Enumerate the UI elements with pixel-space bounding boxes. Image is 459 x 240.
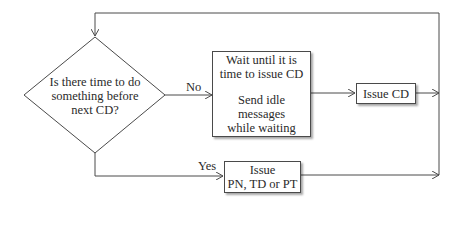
issue-cd-label: Issue CD (363, 87, 409, 101)
decision-line-1: Is there time to do (38, 75, 152, 89)
decision-line-3: next CD? (38, 103, 152, 117)
issue-pn-line-2: PN, TD or PT (228, 177, 298, 191)
decision-text: Is there time to do something before nex… (38, 75, 152, 117)
wait-line-1: Wait until it is (226, 53, 297, 67)
yes-label: Yes (198, 159, 216, 173)
issue-pn-td-pt-box: Issue PN, TD or PT (224, 161, 301, 193)
no-label: No (186, 80, 201, 94)
issue-cd-box: Issue CD (356, 83, 416, 104)
wait-box: Wait until it is time to issue CD Send i… (212, 51, 311, 137)
wait-line-2: time to issue CD (220, 67, 304, 81)
decision-line-2: something before (38, 89, 152, 103)
issue-pn-line-1: Issue (250, 163, 276, 177)
wait-line-3: Send idle messages (213, 93, 310, 121)
wait-line-4: while waiting (227, 121, 295, 135)
